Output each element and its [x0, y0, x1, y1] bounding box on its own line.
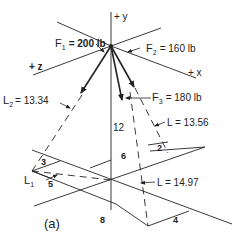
dim-4-label: 4 [173, 215, 178, 225]
z-axis-line [33, 46, 111, 75]
axis-upper-right [111, 28, 161, 46]
svg-text:F3= 180 lb: F3= 180 lb [152, 91, 202, 105]
x-axis-label: + x [188, 67, 202, 78]
label-L-1356: L = 13.56 [167, 117, 209, 128]
origin-point [109, 44, 113, 48]
plane-line-1 [32, 150, 232, 224]
label-L1: L1 [24, 174, 34, 188]
label-F3: F3= 180 lb [152, 91, 202, 105]
dim-6-line [90, 160, 111, 168]
dim-2-label: 2 [157, 143, 162, 153]
svg-text:L1: L1 [24, 174, 34, 188]
svg-text:L2= 13.34: L2= 13.34 [3, 94, 49, 108]
force-arrow-F1 [81, 46, 111, 93]
label-F1: F1= 200 lb [55, 37, 106, 51]
diagram-canvas: + y + x + z F1= 200 lb F2= 160 lb F3= 18… [0, 0, 232, 245]
plane-line-4 [116, 204, 148, 226]
dim-5-line [32, 171, 50, 178]
force-diagram: + y + x + z F1= 200 lb F2= 160 lb F3= 18… [0, 0, 232, 245]
leader-L2 [60, 103, 70, 108]
figure-caption: (a) [44, 216, 60, 231]
dim-5-label: 5 [48, 179, 53, 189]
leader-L-1356 [155, 122, 165, 126]
force-arrow-F3 [111, 46, 122, 100]
svg-text:F1= 200 lb: F1= 200 lb [55, 37, 106, 51]
z-axis-label: + z [29, 61, 43, 72]
label-L2: L2= 13.34 [3, 94, 49, 108]
cable-L-1497 [130, 92, 148, 226]
dim-6-label: 6 [121, 151, 126, 161]
label-L-1497: L = 14.97 [157, 177, 199, 188]
leader-L-1497 [141, 182, 155, 183]
dim-height-label: 12 [113, 122, 125, 133]
label-F2: F2= 160 lb [146, 42, 196, 56]
dim-3-label: 3 [41, 157, 46, 167]
leader-F2 [128, 48, 140, 52]
svg-text:F2= 160 lb: F2= 160 lb [146, 42, 196, 56]
dim-8-label: 8 [100, 215, 105, 225]
dim-4-line [148, 211, 189, 226]
y-axis-label: + y [114, 11, 128, 22]
